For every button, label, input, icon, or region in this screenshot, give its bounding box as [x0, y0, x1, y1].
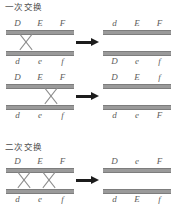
chromosome-pair-after-1: d E F D e f — [103, 18, 171, 66]
allele-labels-top: D E F — [6, 156, 74, 167]
chromatid-bar-top — [103, 30, 171, 35]
allele-label: f — [51, 56, 74, 67]
crossover-diagram: 一次交换 D E F d e f — [0, 0, 178, 213]
allele-label: f — [51, 110, 74, 121]
allele-labels-bottom: d e F — [103, 110, 171, 121]
section-title-double-crossover: 二次交换 — [5, 142, 42, 152]
allele-label: e — [29, 194, 51, 205]
allele-labels-bottom: d e f — [6, 56, 74, 67]
crossover-marks — [6, 86, 74, 106]
allele-label: d — [103, 194, 126, 205]
right-arrow-icon — [76, 92, 100, 101]
chromosome-pair-before-2: D E F d e f — [6, 72, 74, 120]
crossover-x-icon — [17, 170, 32, 190]
allele-label: E — [29, 18, 51, 29]
allele-label: D — [6, 156, 29, 167]
allele-label: F — [51, 156, 74, 167]
crossover-x-icon — [18, 32, 33, 52]
allele-labels-top: D E F — [6, 18, 74, 29]
crossover-marks — [6, 170, 74, 190]
chromatid-bar-top — [103, 168, 171, 173]
allele-labels-bottom: d e f — [6, 110, 74, 121]
allele-label: E — [29, 72, 51, 83]
allele-label: D — [6, 18, 29, 29]
allele-label: d — [103, 18, 126, 29]
allele-label: E — [126, 194, 148, 205]
allele-label: D — [6, 72, 29, 83]
allele-label: D — [103, 56, 126, 67]
diagram-row-3: D E F d e f — [0, 156, 178, 206]
chromosome-pair-after-2: D E f d e F — [103, 72, 171, 120]
right-arrow-icon — [76, 38, 100, 47]
section-title-single-crossover: 一次交换 — [5, 2, 42, 12]
crossover-x-icon — [41, 170, 56, 190]
allele-label: e — [126, 156, 148, 167]
allele-label: E — [126, 72, 148, 83]
chromatid-bar-top — [103, 84, 171, 89]
allele-label: f — [148, 72, 171, 83]
allele-labels-top: D e F — [103, 156, 171, 167]
allele-label: d — [103, 110, 126, 121]
chromatid-bar-top — [6, 168, 74, 173]
allele-labels-top: D E F — [6, 72, 74, 83]
diagram-row-2: D E F d e f D E f — [0, 72, 178, 120]
right-arrow-icon — [76, 176, 100, 185]
allele-label: E — [29, 156, 51, 167]
allele-labels-bottom: d E f — [103, 194, 171, 205]
allele-label: F — [148, 18, 171, 29]
allele-label: f — [148, 56, 171, 67]
allele-label: F — [148, 110, 171, 121]
chromosome-pair-before-3: D E F d e f — [6, 156, 74, 206]
allele-label: d — [6, 56, 29, 67]
allele-label: e — [29, 56, 51, 67]
allele-label: D — [103, 156, 126, 167]
chromosome-pair-after-3: D e F d E f — [103, 156, 171, 206]
diagram-row-1: D E F d e f d E F — [0, 18, 178, 66]
allele-label: F — [51, 72, 74, 83]
allele-label: d — [6, 194, 29, 205]
allele-label: F — [51, 18, 74, 29]
allele-labels-bottom: D e f — [103, 56, 171, 67]
allele-label: f — [148, 194, 171, 205]
chromatid-bar-top — [6, 30, 74, 35]
allele-label: d — [6, 110, 29, 121]
chromosome-pair-before-1: D E F d e f — [6, 18, 74, 66]
crossover-marks — [6, 32, 74, 52]
allele-label: E — [126, 18, 148, 29]
allele-label: F — [148, 156, 171, 167]
crossover-x-icon — [43, 86, 58, 106]
chromatid-bar-top — [6, 84, 74, 89]
allele-labels-bottom: d e f — [6, 194, 74, 205]
allele-label: e — [29, 110, 51, 121]
allele-label: e — [126, 110, 148, 121]
allele-label: f — [51, 194, 74, 205]
allele-labels-top: D E f — [103, 72, 171, 83]
allele-labels-top: d E F — [103, 18, 171, 29]
allele-label: e — [126, 56, 148, 67]
allele-label: D — [103, 72, 126, 83]
